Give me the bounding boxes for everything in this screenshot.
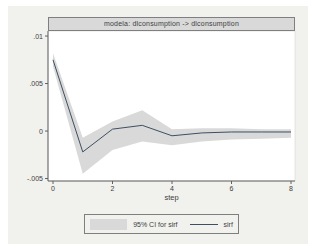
plot-title: modela: dlconsumption -> dlconsumption [104,20,239,27]
ci-band-swatch [90,219,127,230]
ci-band-legend-label: 95% CI for sirf [133,221,177,228]
y-tick-label: 0 [39,128,43,135]
sirf-line-sample [190,224,218,225]
y-tick-label: .005 [29,80,43,87]
x-tick-label: 6 [230,185,234,192]
x-tick-label: 4 [170,185,174,192]
x-tick-label: 0 [51,185,55,192]
x-tick-label: 8 [289,185,293,192]
y-tick-label: .01 [33,33,43,40]
x-tick-label: 2 [111,185,115,192]
legend: 95% CI for sirf sirf [84,214,239,234]
stata-irf-graph-window: .01.0050-.00502468 modela: dlconsumption… [0,0,316,250]
sirf-legend-label: sirf [224,221,233,228]
plot-title-bar: modela: dlconsumption -> dlconsumption [48,17,295,31]
plot-area: .01.0050-.00502468 [0,0,316,250]
x-axis-label: step [48,193,295,202]
y-tick-label: -.005 [27,175,43,182]
